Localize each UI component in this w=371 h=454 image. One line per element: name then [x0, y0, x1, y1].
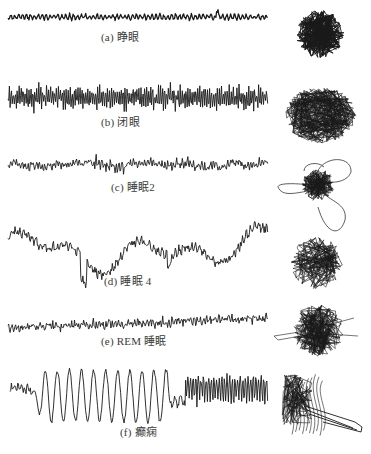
panel-label-eyes-closed: (b) 闭眼: [101, 113, 140, 129]
panel-label-rem-sleep: (e) REM 睡眠: [101, 332, 167, 348]
attractor-c: [303, 170, 334, 200]
attractor-e: [294, 305, 343, 356]
attractor-a: [297, 11, 344, 58]
eeg-attractor-figure: (a) 睁眼 (b) 闭眼 (c) 睡眠2 (d) 睡眠 4 (e) REM 睡…: [0, 0, 371, 454]
panel-label-epilepsy: (f) 癫痫: [120, 423, 157, 439]
attractor-d: [291, 238, 342, 289]
attractor-petal: [318, 191, 345, 231]
attractor-petal: [304, 164, 324, 171]
attractor-loop: [320, 381, 325, 431]
attractor-b: [286, 88, 356, 143]
panel-label-eyes-open: (a) 睁眼: [101, 28, 139, 44]
panel-label-sleep-2: (c) 睡眠2: [111, 178, 155, 194]
attractor-loop: [313, 374, 318, 431]
attractor-loop: [310, 377, 315, 433]
phase-space-attractors: [0, 0, 371, 454]
panel-label-sleep-4: (d) 睡眠 4: [104, 272, 151, 288]
